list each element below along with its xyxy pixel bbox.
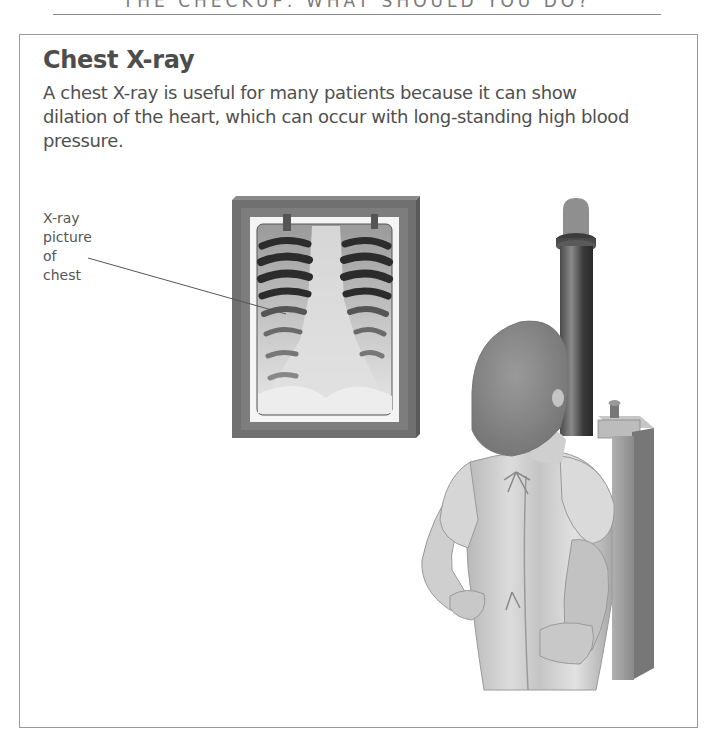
illustration xyxy=(0,0,721,742)
xray-film-frame xyxy=(232,196,420,438)
